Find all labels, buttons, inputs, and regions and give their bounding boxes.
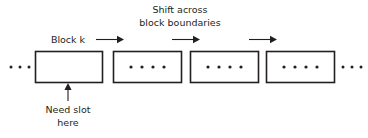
shift-arrow-2-icon: [172, 36, 200, 43]
block-0: [36, 52, 103, 83]
shift-arrow-1-icon: [96, 36, 124, 43]
need-slot-label-line-2: here: [57, 117, 79, 128]
trailing-ellipsis: [342, 66, 363, 69]
leading-ellipsis: [10, 66, 31, 69]
diagram-title-line-1: Shift across: [152, 4, 207, 15]
need-slot-arrow-icon: [64, 83, 71, 101]
block-1: [114, 52, 182, 83]
need-slot-label-line-1: Need slot: [46, 104, 91, 115]
shift-arrow-3-icon: [249, 36, 277, 43]
block-k-label: Block k: [51, 34, 86, 45]
diagram-title-line-2: block boundaries: [139, 17, 220, 28]
shift-across-block-boundaries-diagram: Shift across block boundaries Block k: [0, 0, 368, 138]
block-2: [191, 52, 259, 83]
block-3: [267, 52, 335, 83]
